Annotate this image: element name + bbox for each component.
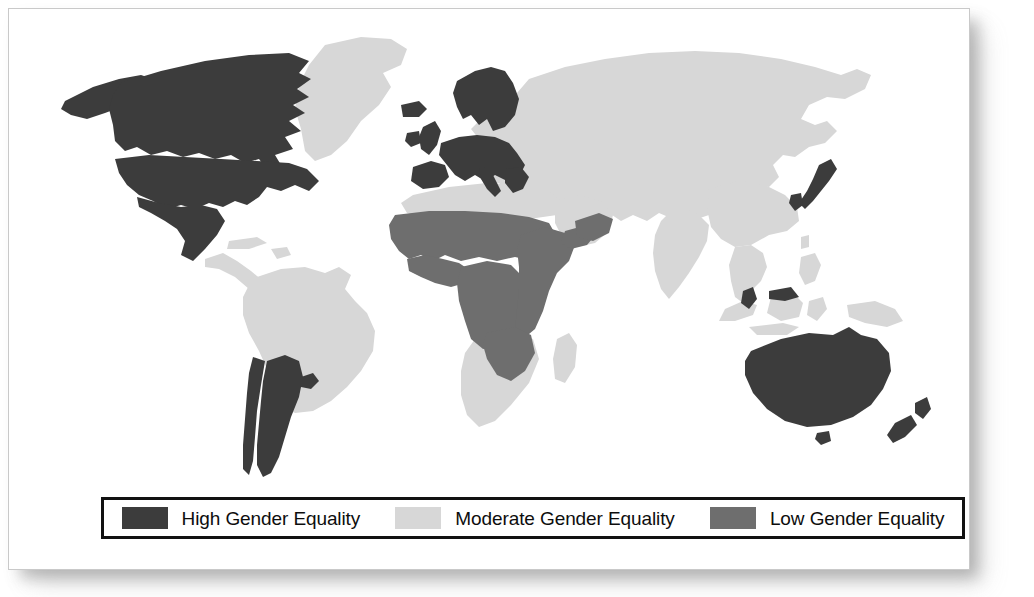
screenshot-root: High Gender Equality Moderate Gender Equ… [0,0,1034,597]
legend-swatch-low-icon [710,507,756,529]
map-legend: High Gender Equality Moderate Gender Equ… [101,497,965,539]
region-taiwan [801,235,809,249]
legend-item-high[interactable]: High Gender Equality [122,507,361,529]
world-map [9,9,969,489]
legend-label-moderate: Moderate Gender Equality [455,509,674,528]
legend-item-moderate[interactable]: Moderate Gender Equality [395,507,674,529]
legend-swatch-high-icon [122,507,168,529]
legend-label-low: Low Gender Equality [770,509,944,528]
map-card: High Gender Equality Moderate Gender Equ… [8,8,970,570]
legend-item-low[interactable]: Low Gender Equality [710,507,944,529]
legend-label-high: High Gender Equality [182,509,361,528]
world-map-svg [9,9,969,489]
legend-swatch-moderate-icon [395,507,441,529]
